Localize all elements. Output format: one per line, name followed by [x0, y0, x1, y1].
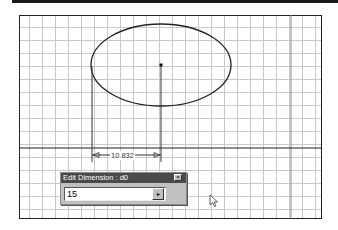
dimension-value-label[interactable]: 10.832 — [110, 151, 135, 160]
dimension-value-input[interactable]: 15 — [64, 187, 166, 201]
arrow-right-icon[interactable]: ▸ — [152, 188, 164, 200]
edit-dimension-dialog: Edit Dimension : d0 × 15 ▸ — [60, 172, 187, 205]
dialog-title-bar[interactable]: Edit Dimension : d0 × — [61, 173, 186, 183]
mouse-pointer-icon — [209, 194, 219, 208]
dialog-title: Edit Dimension : d0 — [63, 173, 128, 182]
close-icon[interactable]: × — [174, 174, 182, 181]
